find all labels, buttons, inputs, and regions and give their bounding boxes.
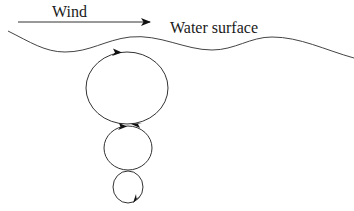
diagram-canvas: Wind Water surface <box>0 0 354 211</box>
vortex-medium <box>104 123 152 170</box>
wind-label: Wind <box>52 4 87 20</box>
vortex-small <box>113 171 143 203</box>
vortex-large <box>86 49 168 129</box>
water-surface-label: Water surface <box>170 20 258 36</box>
arrowhead-icon <box>112 49 122 57</box>
